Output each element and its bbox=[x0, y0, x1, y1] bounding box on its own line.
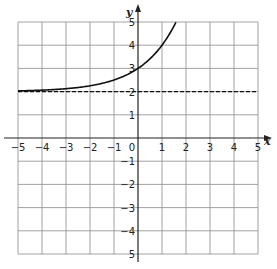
x-tick-label: 4 bbox=[231, 142, 237, 153]
y-tick-label: 5 bbox=[129, 249, 135, 260]
y-tick-label: −2 bbox=[120, 179, 135, 190]
y-tick-label: 4 bbox=[129, 40, 135, 51]
x-tick-label: −5 bbox=[11, 142, 26, 153]
x-tick-label: −3 bbox=[59, 142, 74, 153]
coordinate-plane: −5−4−3−2−101234512345−1−2−3−45 x y bbox=[0, 0, 277, 269]
x-tick-label: −2 bbox=[83, 142, 98, 153]
y-tick-label: 1 bbox=[129, 110, 135, 121]
y-tick-label: −3 bbox=[120, 203, 135, 214]
y-tick-label: −1 bbox=[120, 156, 135, 167]
x-tick-label: 0 bbox=[129, 142, 135, 153]
x-tick-label: 5 bbox=[255, 142, 261, 153]
x-tick-label: −4 bbox=[35, 142, 50, 153]
x-tick-label: 1 bbox=[159, 142, 165, 153]
y-axis-arrow-icon bbox=[135, 4, 141, 12]
x-axis-label: x bbox=[263, 135, 271, 148]
axes bbox=[4, 4, 272, 262]
x-tick-label: −1 bbox=[107, 142, 122, 153]
x-tick-label: 3 bbox=[207, 142, 213, 153]
y-tick-label: −4 bbox=[120, 226, 135, 237]
x-tick-label: 2 bbox=[183, 142, 189, 153]
